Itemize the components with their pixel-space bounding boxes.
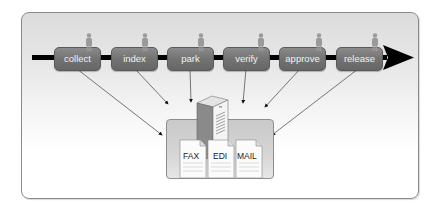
- documents-group: [0, 0, 438, 207]
- document-label-fax: FAX: [183, 151, 199, 161]
- document-label-edi: EDI: [213, 151, 227, 161]
- document-label-mail: MAIL: [237, 151, 257, 161]
